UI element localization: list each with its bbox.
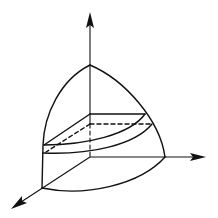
meridian-right — [90, 65, 165, 157]
meridian-left — [42, 65, 90, 188]
sphere-octant-outline — [42, 65, 165, 191]
equator-arc — [42, 157, 165, 191]
slab-top-front-edge — [44, 114, 90, 145]
axes — [11, 12, 206, 209]
x-axis-arrowhead-icon — [11, 196, 27, 209]
x-axis — [18, 157, 90, 204]
sphere-octant-diagram — [0, 0, 218, 218]
